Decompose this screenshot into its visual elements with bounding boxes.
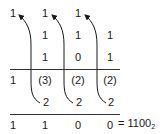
carry-digit: 1 [75,7,81,19]
column-sum: 1 [10,74,16,86]
sum-rule-line [10,69,120,70]
carry-digit: 1 [42,7,48,19]
result-digit: 0 [107,119,113,131]
addend2-digit: 0 [75,51,81,63]
column-sum: (2) [71,74,84,86]
carry-arrow-col3 [85,15,106,103]
addend1-digit: 1 [42,29,48,41]
base-subscript: 2 [151,123,155,130]
carry-two: 2 [76,96,82,108]
carry-arrow-col1 [19,15,40,103]
carry-two: 2 [43,96,49,108]
addend2-digit: 1 [107,51,113,63]
result-equation: = 11002 [118,117,155,133]
carry-two: 2 [108,96,114,108]
result-equation-text: = 1100 [118,117,151,129]
addend1-digit: 1 [75,29,81,41]
result-digit: 1 [10,119,16,131]
result-digit: 0 [75,119,81,131]
result-digit: 1 [42,119,48,131]
column-sum: (2) [103,74,116,86]
result-rule-line [10,114,120,115]
carry-arrow-col2 [52,15,73,103]
addend2-digit: 1 [42,51,48,63]
addend1-digit: 1 [107,29,113,41]
carry-digit: 1 [10,7,16,19]
column-sum: (3) [38,74,51,86]
